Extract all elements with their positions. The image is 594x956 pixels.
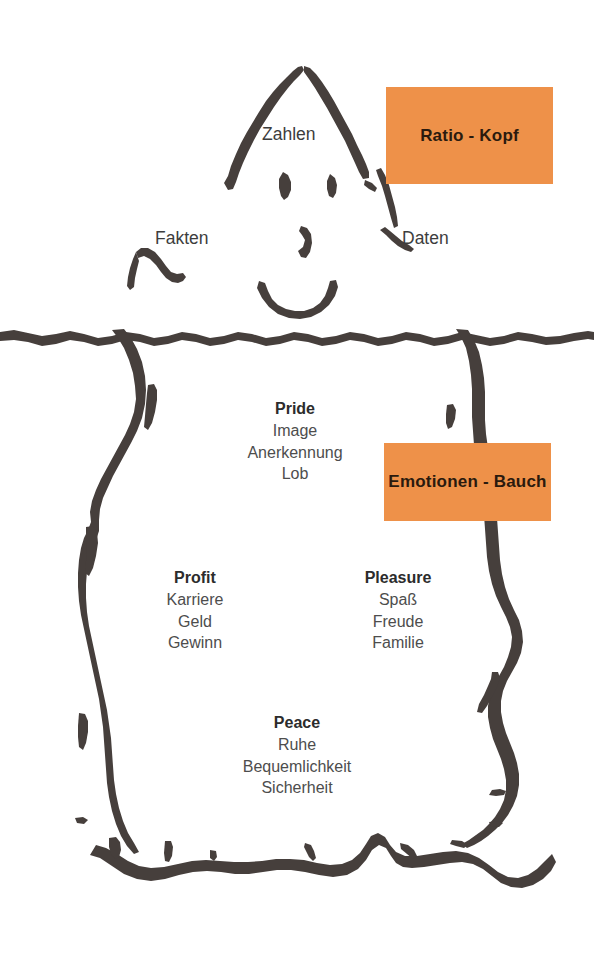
- label-zahlen: Zahlen: [262, 124, 316, 146]
- block-pride-heading: Pride: [210, 398, 380, 419]
- callout-emotionen-bauch: Emotionen - Bauch: [384, 443, 551, 521]
- block-peace-item-3: Sicherheit: [212, 777, 382, 798]
- block-pleasure-item-3: Familie: [318, 632, 478, 653]
- block-pride-item-2: Anerkennung: [210, 442, 380, 463]
- block-profit: Profit Karriere Geld Gewinn: [115, 567, 275, 653]
- block-peace-item-2: Bequemlichkeit: [212, 756, 382, 777]
- callout-ratio-kopf: Ratio - Kopf: [386, 87, 553, 184]
- ink-fleck-peak-right: [364, 180, 377, 192]
- ink-fleck-bottom-f: [450, 840, 468, 848]
- ink-fleck-bottom-d: [304, 843, 316, 861]
- face-right-eye: [327, 174, 337, 198]
- block-profit-item-3: Gewinn: [115, 632, 275, 653]
- face-nose: [298, 226, 312, 258]
- callout-emotionen-bauch-label: Emotionen - Bauch: [388, 472, 546, 492]
- ink-fleck-bottom-b: [164, 841, 173, 862]
- block-profit-heading: Profit: [115, 567, 275, 588]
- block-profit-item-2: Geld: [115, 611, 275, 632]
- ink-fleck-bottom-g: [75, 817, 88, 824]
- block-peace-heading: Peace: [212, 712, 382, 733]
- label-daten: Daten: [402, 228, 449, 250]
- ink-fleck-left-mid: [85, 526, 98, 576]
- iceberg-peak-right-slope: [304, 66, 369, 179]
- block-profit-item-1: Karriere: [115, 589, 275, 610]
- block-peace-item-1: Ruhe: [212, 734, 382, 755]
- face-smile: [257, 280, 338, 319]
- block-pride-item-3: Lob: [210, 463, 380, 484]
- ink-fleck-right-upper: [446, 404, 456, 429]
- iceberg-diagram: Zahlen Fakten Daten Ratio - Kopf Emotion…: [0, 0, 594, 956]
- block-pleasure-heading: Pleasure: [318, 567, 478, 588]
- ink-fleck-right-lower: [489, 789, 506, 796]
- ink-fleck-left-upper: [144, 384, 157, 430]
- waterline: [0, 330, 594, 346]
- ink-fleck-bottom-c: [210, 850, 217, 861]
- block-pleasure-item-2: Freude: [318, 611, 478, 632]
- block-peace: Peace Ruhe Bequemlichkeit Sicherheit: [212, 712, 382, 798]
- iceberg-left-shoulder: [136, 248, 186, 283]
- face-left-eye: [279, 172, 291, 200]
- block-pleasure: Pleasure Spaß Freude Familie: [318, 567, 478, 653]
- callout-ratio-kopf-label: Ratio - Kopf: [420, 126, 519, 146]
- block-pleasure-item-1: Spaß: [318, 589, 478, 610]
- ink-fleck-left-lower: [78, 713, 88, 750]
- block-pride-item-1: Image: [210, 420, 380, 441]
- label-fakten: Fakten: [155, 228, 209, 250]
- iceberg-bottom-edge: [90, 833, 556, 888]
- iceberg-left-shoulder-tail: [127, 252, 139, 290]
- block-pride: Pride Image Anerkennung Lob: [210, 398, 380, 484]
